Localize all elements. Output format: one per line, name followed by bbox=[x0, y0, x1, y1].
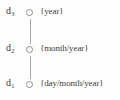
node-d3-variable-label: d3 bbox=[6, 6, 14, 16]
node-d2-variable-label: d2 bbox=[6, 43, 14, 53]
node-d1-variable-label: d1 bbox=[6, 78, 14, 88]
node-circle-icon bbox=[26, 81, 33, 88]
granularity-hierarchy-diagram: d3 {year} d2 {month/year} d1 {day/month/… bbox=[0, 0, 120, 100]
node-d2-granularity-label: {month/year} bbox=[40, 44, 88, 53]
node-circle-icon bbox=[26, 46, 33, 53]
node-d1-granularity-label: {day/month/year} bbox=[40, 79, 104, 88]
node-circle-icon bbox=[26, 9, 33, 16]
node-d3-granularity-label: {year} bbox=[40, 7, 64, 16]
edge-d3-d2 bbox=[30, 19, 31, 44]
edge-d2-d1 bbox=[30, 56, 31, 79]
